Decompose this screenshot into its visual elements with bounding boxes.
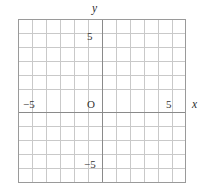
grid-svg — [18, 19, 186, 183]
grid-area — [18, 19, 186, 183]
y-tick-label-positive-5: 5 — [87, 31, 93, 42]
x-tick-label-negative-5: −5 — [23, 99, 35, 110]
x-axis-label: x — [192, 99, 197, 111]
y-tick-label-negative-5: −5 — [84, 159, 96, 170]
origin-label: O — [87, 99, 95, 110]
y-axis-label: y — [92, 3, 97, 15]
x-tick-label-positive-5: 5 — [166, 99, 172, 110]
coordinate-plane-figure: y x 5 −5 −5 5 O — [0, 0, 207, 195]
